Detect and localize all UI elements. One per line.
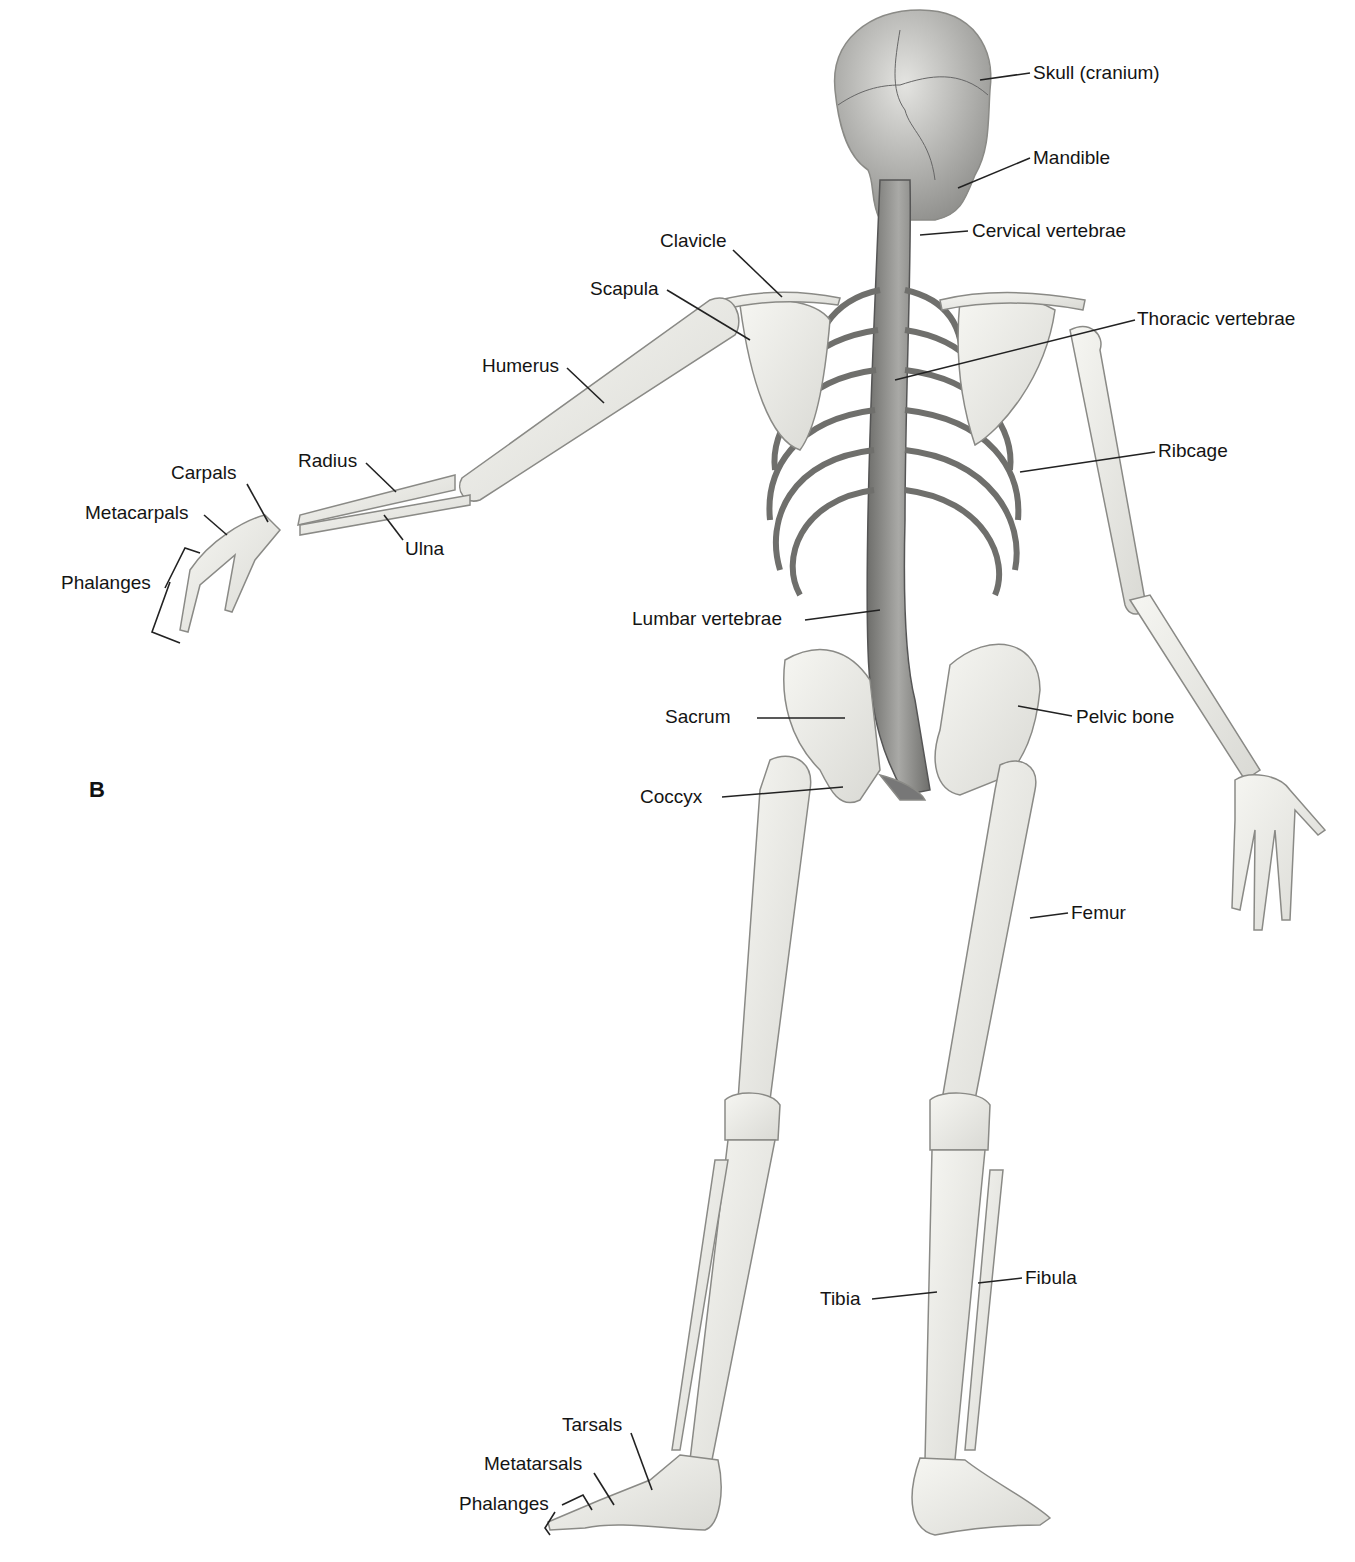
hand-shape — [180, 515, 280, 632]
label-phalanges-hand: Phalanges — [61, 572, 151, 594]
spine-shape — [867, 180, 930, 795]
right-knee-shape — [930, 1093, 990, 1150]
right-femur-shape — [942, 761, 1036, 1111]
left-knee-shape — [725, 1093, 780, 1140]
right-scapula-shape — [958, 296, 1055, 445]
label-tibia: Tibia — [820, 1288, 860, 1310]
skull-shape — [835, 10, 991, 220]
label-femur: Femur — [1071, 902, 1126, 924]
label-ribcage: Ribcage — [1158, 440, 1228, 462]
label-metacarpals: Metacarpals — [85, 502, 189, 524]
label-radius: Radius — [298, 450, 357, 472]
label-carpals: Carpals — [171, 462, 236, 484]
label-tarsals: Tarsals — [562, 1414, 622, 1436]
label-cervical-vertebrae: Cervical vertebrae — [972, 220, 1126, 242]
label-clavicle: Clavicle — [660, 230, 727, 252]
right-forearm-shape — [1130, 595, 1260, 780]
label-skull: Skull (cranium) — [1033, 62, 1160, 84]
label-lumbar-vertebrae: Lumbar vertebrae — [632, 608, 782, 630]
left-femur-shape — [738, 756, 811, 1111]
label-coccyx: Coccyx — [640, 786, 702, 808]
label-ulna: Ulna — [405, 538, 444, 560]
label-thoracic-vertebrae: Thoracic vertebrae — [1137, 308, 1295, 330]
label-fibula: Fibula — [1025, 1267, 1077, 1289]
label-pelvic-bone: Pelvic bone — [1076, 706, 1174, 728]
label-mandible: Mandible — [1033, 147, 1110, 169]
label-scapula: Scapula — [590, 278, 659, 300]
label-phalanges-foot: Phalanges — [459, 1493, 549, 1515]
right-humerus-shape — [1070, 327, 1145, 614]
right-hand-shape — [1232, 775, 1325, 930]
label-sacrum: Sacrum — [665, 706, 730, 728]
label-humerus: Humerus — [482, 355, 559, 377]
panel-letter: B — [89, 777, 105, 803]
label-metatarsals: Metatarsals — [484, 1453, 582, 1475]
right-foot-shape — [912, 1458, 1050, 1535]
